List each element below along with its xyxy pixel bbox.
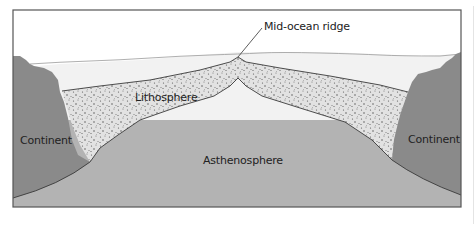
label-mid-ocean-ridge: Mid-ocean ridge	[264, 20, 350, 33]
label-lithosphere: Lithosphere	[135, 91, 198, 104]
mid-ocean-ridge-diagram: Mid-ocean ridge Lithosphere Asthenospher…	[0, 0, 476, 227]
label-asthenosphere: Asthenosphere	[203, 154, 283, 167]
label-continent-left: Continent	[20, 134, 73, 147]
page-edge-rule	[473, 6, 474, 224]
label-continent-right: Continent	[408, 133, 461, 146]
diagram-stage: Mid-ocean ridge Lithosphere Asthenospher…	[0, 0, 476, 227]
